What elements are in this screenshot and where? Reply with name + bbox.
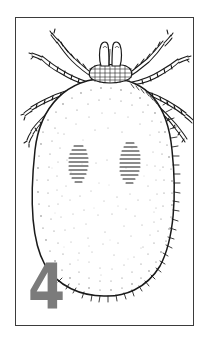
figure-number-label: 4 [28,256,66,318]
figure-plate: 4 [0,0,209,342]
palps [100,42,110,66]
capitulum [89,42,133,83]
